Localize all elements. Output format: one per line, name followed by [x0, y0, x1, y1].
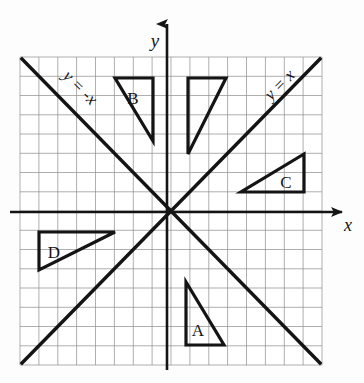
y-axis-label: y	[149, 30, 160, 51]
triangle-A-label: A	[192, 321, 205, 340]
triangle-C-label: C	[280, 173, 291, 192]
x-axis-label: x	[343, 215, 352, 235]
triangle-D-label: D	[48, 243, 60, 262]
coordinate-plane-svg: A B C D y x y = -x y = x	[0, 0, 364, 383]
triangle-B-label: B	[127, 89, 138, 108]
coordinate-grid-figure: A B C D y x y = -x y = x	[0, 0, 364, 383]
